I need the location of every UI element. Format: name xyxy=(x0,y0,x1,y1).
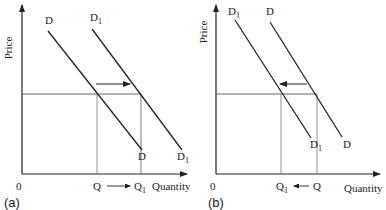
origin-label: 0 xyxy=(16,180,22,192)
panel-a: Price 0 Quantity D D1 D D1 Q Q1 (a) xyxy=(2,5,191,210)
y-axis-label: Price xyxy=(2,37,14,60)
demand-curve-d1 xyxy=(92,29,182,150)
label-d1-top: D1 xyxy=(90,11,102,26)
x-axis-label: Quantity xyxy=(152,180,191,192)
label-d1-top: D1 xyxy=(228,5,240,20)
q-label: Q xyxy=(313,180,321,192)
q1-label: Q1 xyxy=(134,180,146,195)
y-axis-label: Price xyxy=(197,21,209,44)
label-d-bottom: D xyxy=(138,150,146,162)
label-d-top: D xyxy=(45,14,53,26)
origin-label: 0 xyxy=(210,180,216,192)
demand-curve-d xyxy=(48,31,142,150)
panel-label-b: (b) xyxy=(208,195,224,210)
x-axis-label: Quantity xyxy=(344,182,383,194)
label-d1-bottom: D1 xyxy=(310,138,322,153)
q-label: Q xyxy=(93,180,101,192)
demand-curve-d1 xyxy=(235,20,311,138)
q1-label: Q1 xyxy=(276,180,288,195)
label-d-top: D xyxy=(266,5,274,17)
demand-shift-diagram: Price 0 Quantity D D1 D D1 Q Q1 (a) Pric… xyxy=(0,0,386,210)
label-d1-bottom: D1 xyxy=(177,150,189,165)
panel-b: Price 0 Quantity D1 D D1 D Q1 Q (b) xyxy=(197,5,383,210)
label-d-bottom: D xyxy=(343,138,351,150)
panel-label-a: (a) xyxy=(4,195,20,210)
